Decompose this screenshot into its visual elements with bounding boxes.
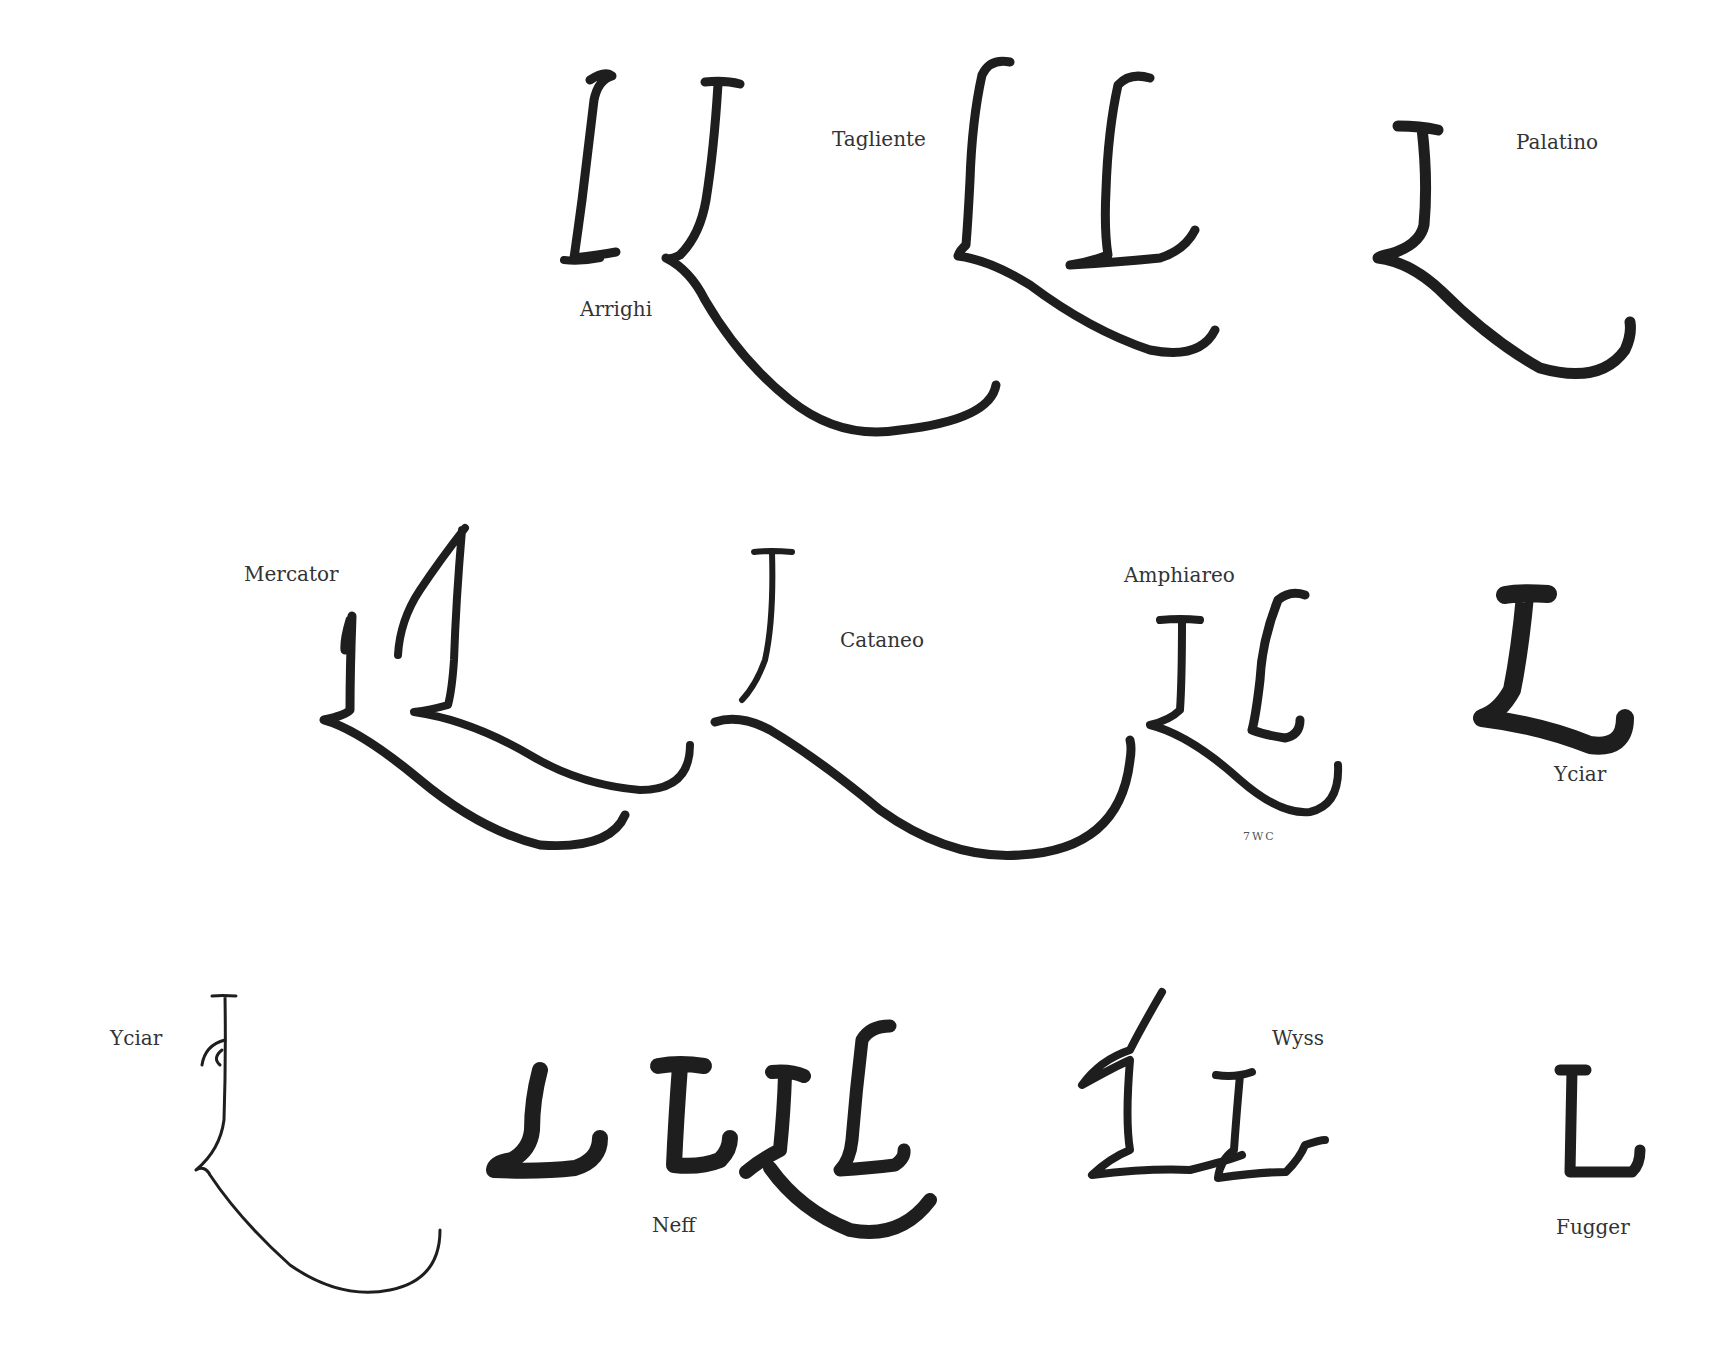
label-yciar-bottom: Yciar (110, 1026, 162, 1050)
label-initials: 7WC (1243, 830, 1276, 843)
label-amphiareo: Amphiareo (1124, 563, 1235, 587)
amphiareo-glyphs (1150, 593, 1338, 812)
tagliente-glyphs (958, 61, 1215, 352)
label-palatino: Palatino (1516, 130, 1598, 154)
yciar-thin-glyph (196, 996, 440, 1293)
label-mercator: Mercator (244, 562, 339, 586)
mercator-glyphs (324, 528, 690, 846)
label-neff: Neff (652, 1213, 696, 1237)
fugger-glyph (1560, 1070, 1640, 1172)
wyss-glyphs (1082, 992, 1325, 1178)
yciar-bold-glyph (1482, 593, 1625, 745)
label-fugger: Fugger (1556, 1215, 1630, 1239)
label-tagliente: Tagliente (832, 127, 926, 151)
letter-l-specimen-sheet: Arrighi Tagliente Palatino Mercator Cata… (0, 0, 1714, 1360)
letterforms-drawing (0, 0, 1714, 1360)
label-arrighi: Arrighi (580, 297, 652, 321)
label-cataneo: Cataneo (840, 628, 924, 652)
cataneo-glyphs (715, 551, 1131, 855)
label-yciar-top: Yciar (1554, 762, 1606, 786)
neff-glyphs (494, 1026, 930, 1232)
palatino-glyphs (1378, 126, 1630, 374)
arrighi-glyphs (564, 74, 996, 432)
label-wyss: Wyss (1272, 1026, 1324, 1050)
